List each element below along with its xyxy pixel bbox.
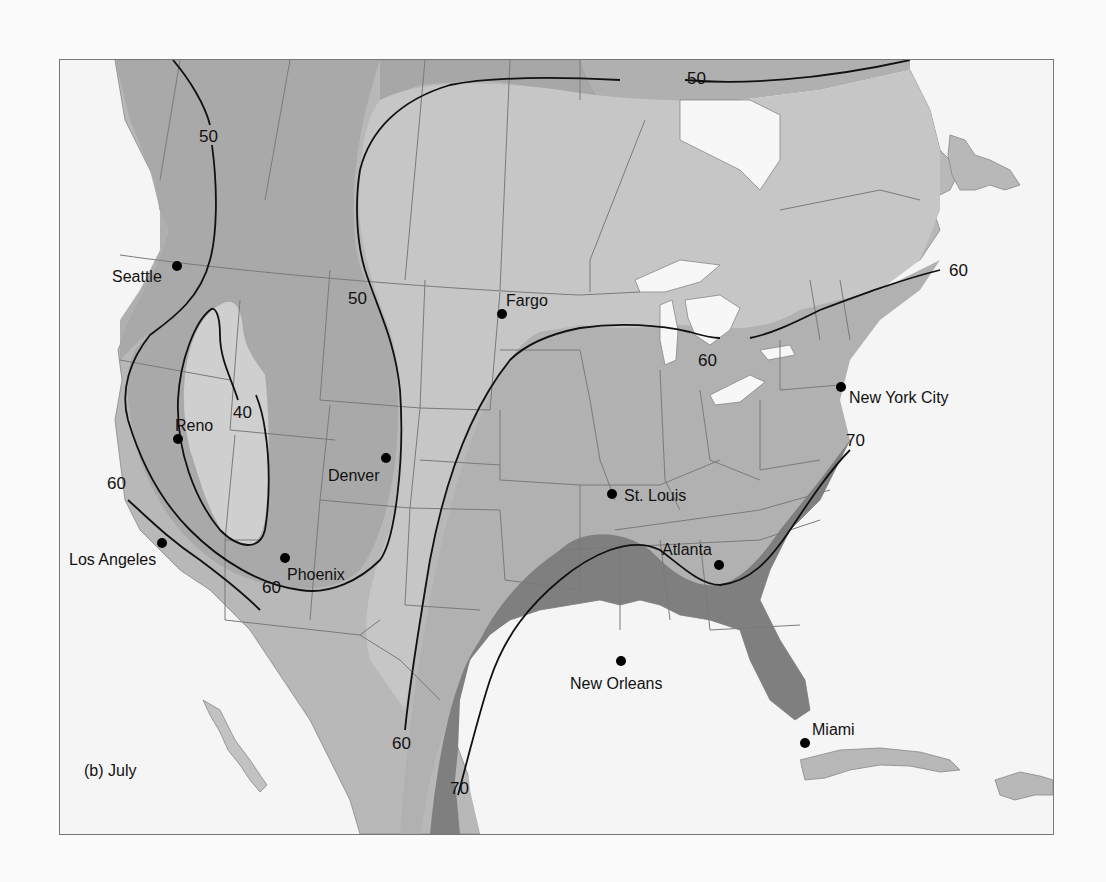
svg-text:Seattle: Seattle [112, 268, 162, 285]
svg-text:Fargo: Fargo [506, 292, 548, 309]
map-canvas: 50 50 50 40 60 60 60 60 60 70 70 Seattle… [60, 60, 1053, 834]
panel-label: (b) July [84, 762, 136, 779]
isoline-label-60: 60 [949, 261, 968, 280]
isoline-label-60: 60 [698, 351, 717, 370]
svg-text:Atlanta: Atlanta [662, 541, 712, 558]
isoline-label-40: 40 [233, 403, 252, 422]
svg-text:Los Angeles: Los Angeles [69, 551, 156, 568]
svg-text:St. Louis: St. Louis [624, 487, 686, 504]
isoline-label-70: 70 [846, 431, 865, 450]
svg-text:Reno: Reno [175, 417, 213, 434]
isoline-label-60: 60 [392, 734, 411, 753]
svg-text:New York City: New York City [849, 389, 949, 406]
isoline-label-50: 50 [199, 127, 218, 146]
isoline-label-60: 60 [107, 474, 126, 493]
isoline-label-50: 50 [687, 69, 706, 88]
svg-text:Denver: Denver [328, 467, 380, 484]
isotherm-map: 50 50 50 40 60 60 60 60 60 70 70 Seattle… [59, 59, 1054, 835]
isoline-label-60: 60 [262, 578, 281, 597]
svg-text:New Orleans: New Orleans [570, 675, 662, 692]
isoline-label-70: 70 [450, 779, 469, 798]
isoline-label-50: 50 [348, 289, 367, 308]
svg-text:Miami: Miami [812, 721, 855, 738]
svg-text:Phoenix: Phoenix [287, 566, 345, 583]
